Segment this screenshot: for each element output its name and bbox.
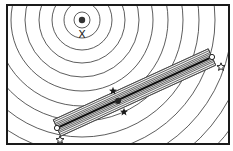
band-line (54, 51, 209, 122)
contour-circle (0, 0, 233, 151)
contour-circle (0, 0, 233, 151)
optimum-dot-icon (79, 17, 85, 23)
band-line (60, 63, 215, 134)
open-star-icon (56, 136, 64, 144)
band-line (58, 60, 213, 131)
contour-lines (0, 0, 233, 151)
contour-circle (0, 0, 233, 151)
band-line (58, 59, 213, 130)
x-marker: X (78, 28, 86, 41)
filled-star-icon (120, 108, 128, 116)
band-line (56, 54, 211, 125)
band-line (61, 65, 216, 136)
open-circle-icon (54, 125, 59, 130)
contour-diagram: X (0, 0, 233, 151)
contour-circle (52, 0, 112, 50)
contour-circle (0, 0, 232, 151)
center-dot-icon (115, 98, 121, 104)
contour-circle (0, 0, 233, 151)
open-circle-icon (209, 54, 214, 59)
band-line (53, 49, 208, 120)
